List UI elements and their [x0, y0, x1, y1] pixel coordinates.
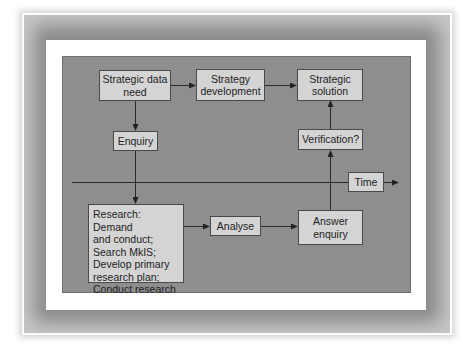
node-enquiry: Enquiry [113, 131, 158, 151]
node-strategic-solution: Strategic solution [297, 69, 363, 101]
node-research: Research: Demand and conduct; Search MkI… [88, 204, 184, 283]
node-verification: Verification? [298, 129, 363, 150]
node-answer-enquiry: Answer enquiry [298, 210, 363, 245]
time-label: Time [348, 172, 384, 192]
node-strategy-development: Strategy development [196, 69, 265, 101]
node-analyse: Analyse [210, 216, 261, 236]
node-strategic-data-need: Strategic data need [99, 70, 171, 101]
